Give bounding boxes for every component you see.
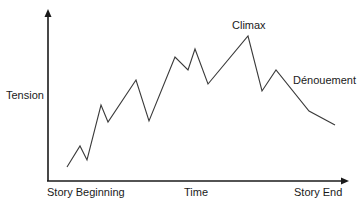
y-axis-label: Tension bbox=[6, 90, 44, 101]
x-start-label: Story Beginning bbox=[47, 187, 125, 198]
climax-annotation: Climax bbox=[232, 20, 266, 31]
plot-area bbox=[0, 0, 357, 207]
denouement-annotation: Dénouement bbox=[293, 75, 356, 86]
x-end-label: Story End bbox=[294, 187, 342, 198]
x-axis-label: Time bbox=[184, 187, 208, 198]
axes bbox=[45, 9, 350, 185]
y-axis-arrow-icon bbox=[45, 9, 52, 17]
tension-curve bbox=[67, 36, 335, 167]
x-axis-arrow-icon bbox=[341, 178, 349, 185]
